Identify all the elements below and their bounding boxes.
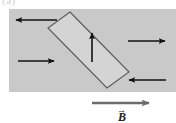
b-field-label: B [118, 111, 126, 123]
magnetic-field-diagram [0, 0, 176, 123]
physics-figure: (a) → B [0, 0, 176, 123]
